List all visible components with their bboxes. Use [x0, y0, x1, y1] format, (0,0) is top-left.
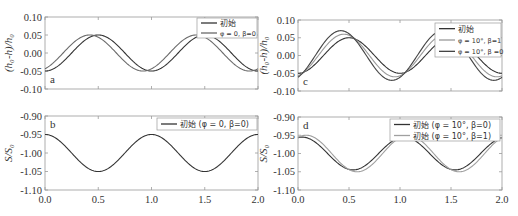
x-tick-label: 2.0 — [495, 194, 508, 205]
x-tick-label: 0.0 — [38, 194, 51, 205]
legend-label: 初始 (φ = 0, β=0) — [180, 119, 249, 129]
y-tick-label: 0.10 — [24, 12, 42, 23]
panel-letter: b — [50, 118, 56, 130]
y-tick-label: -1.05 — [273, 166, 295, 177]
y-axis-label: S/S₀ — [257, 144, 269, 162]
x-tick-label: 1.0 — [393, 194, 406, 205]
y-axis-label: (h₀-h)/h₀ — [2, 34, 15, 72]
legend-label: 初始 (φ = 10°, β=0) — [413, 120, 491, 130]
y-tick-label: -0.10 — [20, 84, 42, 95]
y-tick-label: -1.05 — [20, 166, 42, 177]
y-axis-label: (h₀-h)/h₀ — [257, 36, 270, 74]
panel-letter: a — [50, 73, 55, 85]
y-tick-label: 0.00 — [277, 50, 295, 61]
y-axis-label: S/S₀ — [2, 144, 14, 162]
panel-c: 0.100.050.00-0.05-0.10(h₀-h)/h₀c初始φ = 10… — [257, 15, 503, 97]
legend-label: φ = 10°, β =0 — [458, 48, 503, 56]
y-tick-label: -0.90 — [20, 111, 42, 122]
legend-label: φ = 0, β=0 — [220, 30, 256, 38]
y-tick-label: -1.00 — [20, 148, 42, 159]
legend-label: 初始 — [220, 18, 236, 28]
panel-b: -0.90-0.95-1.00-1.05-1.100.00.51.01.52.0… — [2, 111, 265, 206]
y-tick-label: -0.10 — [273, 86, 295, 97]
y-tick-label: 0.00 — [24, 48, 42, 59]
x-tick-label: 1.5 — [198, 194, 211, 205]
y-tick-label: 0.10 — [277, 15, 295, 26]
x-tick-label: 0.0 — [291, 194, 304, 205]
y-tick-label: -0.05 — [273, 68, 295, 79]
x-tick-label: 2.0 — [251, 194, 264, 205]
x-tick-label: 0.5 — [92, 194, 105, 205]
panel-letter: c — [303, 75, 308, 87]
y-tick-label: -0.05 — [20, 66, 42, 77]
panel-d: -0.90-0.95-1.00-1.05-1.100.00.51.01.52.0… — [257, 112, 509, 206]
y-tick-label: -0.95 — [20, 129, 42, 140]
y-tick-label: -0.95 — [273, 130, 295, 141]
y-tick-label: 0.05 — [277, 32, 295, 43]
legend-label: 初始 (φ = 10°, β=1) — [413, 131, 491, 141]
legend-label: 初始 — [458, 24, 474, 34]
y-tick-label: -1.00 — [273, 148, 295, 159]
figure: 0.100.050.00-0.05-0.10(h₀-h)/h₀a初始φ = 0,… — [0, 0, 518, 216]
panel-letter: d — [303, 119, 309, 131]
x-tick-label: 0.5 — [342, 194, 355, 205]
x-tick-label: 1.5 — [444, 194, 457, 205]
x-tick-label: 1.0 — [145, 194, 158, 205]
legend-label: φ = 10°, β=1 — [458, 37, 501, 45]
y-tick-label: -0.90 — [273, 112, 295, 123]
panel-a: 0.100.050.00-0.05-0.10(h₀-h)/h₀a初始φ = 0,… — [2, 12, 258, 95]
y-tick-label: 0.05 — [24, 30, 42, 41]
